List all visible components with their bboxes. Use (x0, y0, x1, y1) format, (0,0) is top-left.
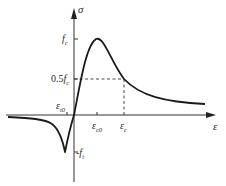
eps-t0-label: εt0 (56, 101, 65, 114)
x-axis-arrow-icon (206, 112, 216, 118)
epsilon-axis-label: ε (213, 121, 217, 132)
ft-label: -ft (76, 148, 84, 161)
eps-c0-label: εc0 (92, 121, 102, 134)
compression-curve (74, 39, 205, 115)
diagram-graphics (0, 0, 226, 186)
y-axis-arrow-icon (71, 8, 77, 19)
tension-curve (8, 115, 74, 152)
fc-label: fc (62, 34, 68, 47)
eps-c-label: εc (120, 121, 127, 134)
half-fc-label: 0.5fc (51, 74, 69, 87)
sigma-axis-label: σ (78, 4, 83, 15)
stress-strain-diagram: σ ε fc 0.5fc εt0 εc0 εc -ft (0, 0, 226, 186)
